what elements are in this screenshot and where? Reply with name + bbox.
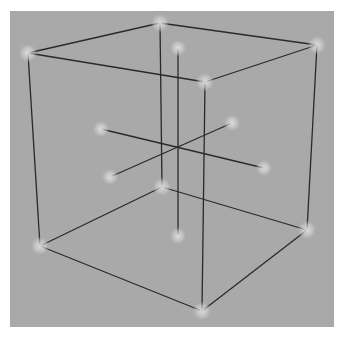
- cube-edge-bottom-front-bottom-left: [40, 246, 202, 311]
- axis-node-top: [169, 39, 187, 57]
- cube-diagram: [0, 0, 344, 337]
- vertex-node-bottom-right: [297, 220, 317, 240]
- vertex-node-top-right: [307, 35, 327, 55]
- cube-edge-bottom-left-bottom-back: [40, 187, 162, 246]
- axis-line-depth: [110, 123, 232, 177]
- cube-edge-top-left-bottom-left: [28, 53, 40, 246]
- cube-edge-top-front-bottom-front: [202, 82, 205, 311]
- cube-edge-bottom-right-bottom-front: [202, 230, 307, 311]
- vertex-node-top-back: [150, 13, 170, 33]
- vertex-node-bottom-left: [30, 236, 50, 256]
- axis-node-back: [223, 114, 241, 132]
- axis-line-horizontal: [101, 129, 264, 168]
- axis-node-front: [101, 168, 119, 186]
- axis-node-bottom: [169, 227, 187, 245]
- axis-node-left: [92, 120, 110, 138]
- vertex-node-bottom-front: [192, 301, 212, 321]
- cube-edge-top-back-bottom-back: [160, 23, 162, 187]
- cube-edge-top-left-top-back: [28, 23, 160, 53]
- cube-edge-top-right-bottom-right: [307, 45, 317, 230]
- cube-edges: [28, 23, 317, 311]
- vertex-node-top-front: [195, 72, 215, 92]
- cube-edge-top-right-top-front: [205, 45, 317, 82]
- vertex-node-bottom-back: [152, 177, 172, 197]
- cube-edge-bottom-back-bottom-right: [162, 187, 307, 230]
- axis-node-right: [255, 159, 273, 177]
- vertex-node-top-left: [18, 43, 38, 63]
- axis-lines: [101, 48, 264, 236]
